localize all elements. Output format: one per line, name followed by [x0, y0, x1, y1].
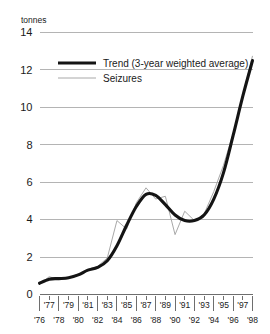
x-tick-label-upper: '85 — [121, 300, 132, 310]
x-tick-label-lower: '94 — [208, 315, 219, 325]
chart-container: tonnes 02468101214 '77'79'81'83'85'87'89… — [0, 0, 270, 334]
x-tick-label-upper: '79 — [63, 300, 74, 310]
x-tick-label-upper: '93 — [199, 300, 210, 310]
x-tick-label-lower: '78 — [53, 315, 64, 325]
legend-label: Trend (3-year weighted average) — [103, 58, 248, 69]
y-tick-label: 12 — [20, 64, 32, 76]
x-tick-label-upper: '89 — [160, 300, 171, 310]
x-tick-label-upper: '91 — [179, 300, 190, 310]
y-axis-unit-label: tonnes — [21, 15, 47, 25]
x-tick-label-lower: '80 — [73, 315, 84, 325]
x-tick-label-upper: '81 — [82, 300, 93, 310]
x-tick-label-lower: '84 — [111, 315, 122, 325]
y-tick-label: 2 — [26, 251, 32, 263]
x-tick-label-lower: '98 — [247, 315, 258, 325]
y-tick-label: 6 — [26, 176, 32, 188]
x-tick-label-upper: '83 — [102, 300, 113, 310]
x-tick-label-lower: '92 — [189, 315, 200, 325]
y-tick-label: 10 — [20, 101, 32, 113]
x-tick-label-upper: '95 — [218, 300, 229, 310]
x-tick-label-lower: '86 — [131, 315, 142, 325]
x-tick-label-lower: '76 — [34, 315, 45, 325]
legend-label: Seizures — [103, 73, 142, 84]
y-tick-label: 0 — [26, 288, 32, 300]
y-tick-label: 4 — [26, 213, 32, 225]
y-tick-label: 14 — [20, 26, 32, 38]
line-chart: tonnes 02468101214 '77'79'81'83'85'87'89… — [0, 0, 270, 334]
y-tick-label: 8 — [26, 139, 32, 151]
x-tick-label-lower: '96 — [228, 315, 239, 325]
x-tick-label-upper: '97 — [237, 300, 248, 310]
x-tick-label-upper: '77 — [44, 300, 55, 310]
x-tick-label-upper: '87 — [140, 300, 151, 310]
x-tick-label-lower: '82 — [92, 315, 103, 325]
x-tick-label-lower: '90 — [170, 315, 181, 325]
x-tick-label-lower: '88 — [150, 315, 161, 325]
